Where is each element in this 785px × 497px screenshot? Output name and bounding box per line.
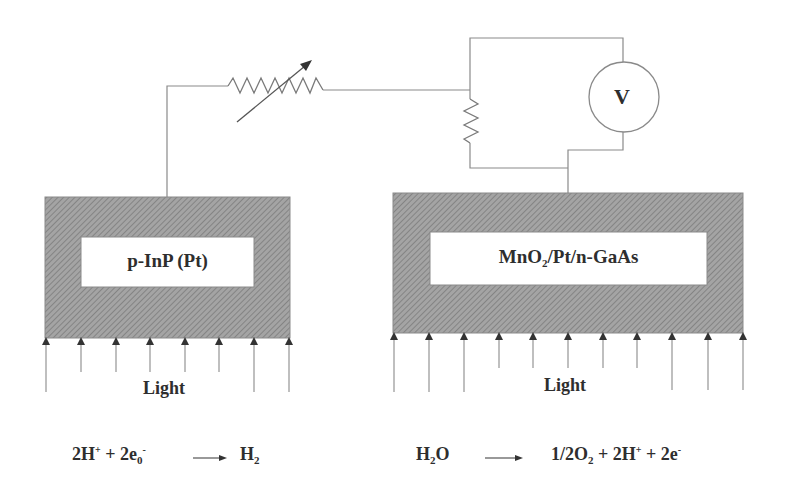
- eq-right-h: H: [416, 444, 430, 464]
- right-light-label: Light: [544, 375, 586, 396]
- right-electrode-label: MnO2/Pt/n-GaAs: [430, 246, 707, 269]
- eq-left-product: H: [240, 444, 254, 464]
- eq-left-term1: 2H: [72, 444, 95, 464]
- resistor-icon: [464, 99, 478, 143]
- eq-right-electrons: + 2e: [641, 444, 677, 464]
- eq-left-sub2: 0: [137, 454, 143, 466]
- anode-reaction-products: 1/2O2 + 2H+ + 2e-: [551, 444, 681, 466]
- eq-left-term2: + 2e: [101, 444, 137, 464]
- eq-right-o2: 1/2O: [551, 444, 588, 464]
- variable-resistor-icon: [228, 60, 323, 122]
- left-light-label: Light: [143, 378, 185, 399]
- cathode-product: H2: [240, 444, 260, 466]
- right-label-part-b: /Pt/n-GaAs: [548, 246, 639, 267]
- eq-left-product-sub: 2: [254, 454, 260, 466]
- cathode-reaction-equation: 2H+ + 2e0-: [72, 444, 146, 466]
- circuit-wires: [167, 38, 623, 197]
- eq-right-o: O: [436, 444, 450, 464]
- eq-right-electrons-sup: -: [678, 444, 681, 455]
- right-label-part-a: MnO: [499, 246, 542, 267]
- eq-right-h-plus: + 2H: [594, 444, 636, 464]
- left-electrode-label: p-InP (Pt): [81, 250, 254, 272]
- eq-left-sup2: -: [142, 444, 145, 455]
- anode-reactant: H2O: [416, 444, 450, 466]
- voltmeter-label: V: [614, 84, 630, 110]
